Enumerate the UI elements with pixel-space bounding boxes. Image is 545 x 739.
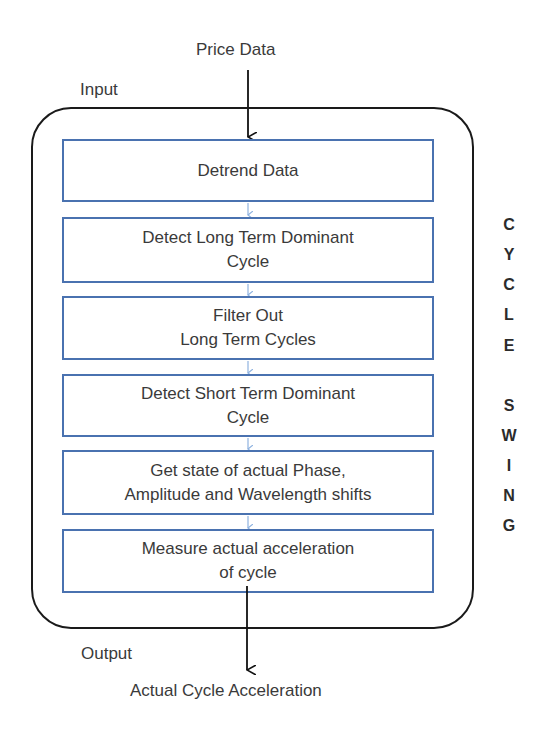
side-title-letter: L (500, 306, 518, 324)
side-title-letter: I (500, 457, 518, 475)
side-title-letter: E (500, 337, 518, 355)
side-title-letter: Y (500, 246, 518, 264)
side-title-letter: N (500, 487, 518, 505)
output-result-label: Actual Cycle Acceleration (130, 681, 322, 701)
side-title-letter: C (500, 216, 518, 234)
side-title-letter: W (500, 427, 518, 445)
output-arrow-layer (0, 0, 545, 739)
side-title-letter: C (500, 276, 518, 294)
side-title-letter: G (500, 517, 518, 535)
output-label: Output (81, 644, 132, 664)
side-title-letter: S (500, 397, 518, 415)
